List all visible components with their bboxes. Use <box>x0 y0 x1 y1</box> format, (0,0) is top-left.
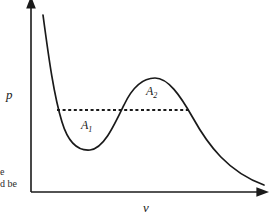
area-a2-subscript: 2 <box>153 91 157 100</box>
area-a2-label: A2 <box>146 85 157 100</box>
plot-canvas <box>0 0 269 217</box>
x-axis-label: v <box>143 201 149 214</box>
isotherm-figure: p v A1 A2 e d be <box>0 0 269 217</box>
y-axis-label: p <box>6 88 13 101</box>
clipped-text-line-1: e <box>0 167 4 177</box>
clipped-text-line-2: d be <box>0 179 17 189</box>
area-a1-subscript: 1 <box>88 125 92 134</box>
area-a1-label: A1 <box>81 119 92 134</box>
